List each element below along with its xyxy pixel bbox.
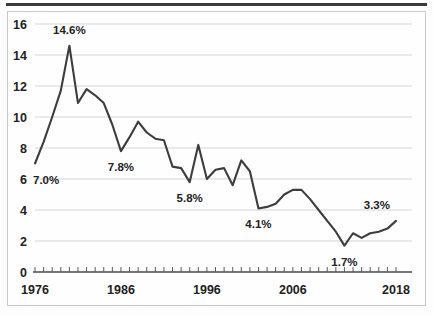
plot-area: 0246810121416 19761986199620062018 7.0%1… <box>0 0 433 316</box>
line-chart-svg: 0246810121416 19761986199620062018 7.0%1… <box>0 0 433 316</box>
data-label-1-7pct: 1.7% <box>331 256 357 268</box>
x-axis-tick-label: 1986 <box>107 283 135 297</box>
data-label-7-0pct: 7.0% <box>33 174 59 186</box>
y-axis-tick-label: 8 <box>20 142 27 156</box>
data-series-group <box>35 46 396 246</box>
gridlines-group <box>35 24 412 241</box>
y-axis-tick-label: 0 <box>20 266 27 280</box>
data-label-3-3pct: 3.3% <box>364 199 390 211</box>
data-label-14-6pct: 14.6% <box>53 24 86 36</box>
y-axis-tick-label: 4 <box>20 204 27 218</box>
x-axis-tick-label: 2006 <box>279 283 307 297</box>
data-label-7-8pct: 7.8% <box>108 161 134 173</box>
x-axis-tick-label: 1976 <box>21 283 49 297</box>
x-axis-tick-label: 2018 <box>382 283 410 297</box>
data-label-5-8pct: 5.8% <box>177 192 203 204</box>
x-axis-tick-label: 1996 <box>193 283 221 297</box>
y-axis-tick-label: 12 <box>13 80 27 94</box>
data-label-4-1pct: 4.1% <box>245 218 271 230</box>
chart-figure: 0246810121416 19761986199620062018 7.0%1… <box>0 0 433 316</box>
series-line-rate <box>35 46 396 246</box>
x-axis-group <box>33 267 412 272</box>
y-axis-tick-label: 14 <box>13 49 27 63</box>
y-axis-tick-label: 10 <box>13 111 27 125</box>
x-axis-tick-labels: 19761986199620062018 <box>21 283 410 297</box>
y-axis-tick-label: 2 <box>20 235 27 249</box>
y-axis-tick-label: 6 <box>20 173 27 187</box>
y-axis-tick-labels: 0246810121416 <box>13 18 27 280</box>
y-axis-tick-label: 16 <box>13 18 27 32</box>
